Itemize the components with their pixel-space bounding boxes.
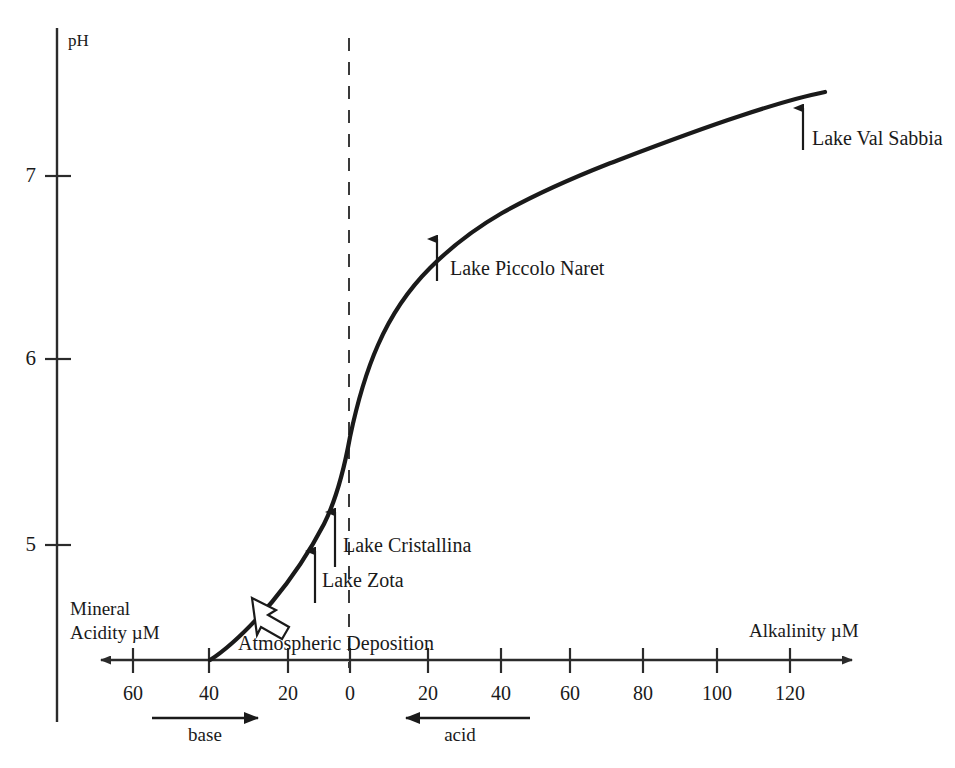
chart-canvas [0,0,955,768]
ph-titration-figure: pH 7 6 5 60 40 20 0 20 40 60 80 100 120 … [0,0,955,768]
x-tick-label-120: 120 [763,682,817,704]
x-tick-label-20: 20 [403,682,453,704]
x-tick-label-80: 80 [618,682,668,704]
mineral-acidity-line2: Acidity µM [70,621,160,645]
atmospheric-deposition-label: Atmospheric Deposition [238,632,434,654]
x-tick-label-60: 60 [545,682,595,704]
alkalinity-axis-title: Alkalinity µM [749,620,859,641]
x-tick-label-minus20: 20 [263,682,313,704]
y-tick-label-5: 5 [8,533,36,557]
lake-piccolo-naret-label: Lake Piccolo Naret [450,257,604,279]
x-tick-label-minus40: 40 [184,682,234,704]
y-axis-title: pH [68,31,89,50]
x-tick-label-zero: 0 [325,682,375,704]
base-label: base [170,724,240,745]
x-tick-label-100: 100 [690,682,744,704]
mineral-acidity-axis-title: Mineral Acidity µM [70,597,160,645]
lake-zota-label: Lake Zota [322,569,404,591]
mineral-acidity-line1: Mineral [70,597,160,621]
titration-curve [210,92,825,660]
x-tick-label-minus60: 60 [108,682,158,704]
lake-cristallina-label: Lake Cristallina [343,534,471,556]
y-tick-label-6: 6 [8,347,36,371]
x-tick-label-40: 40 [476,682,526,704]
lake-val-sabbia-label: Lake Val Sabbia [812,127,943,149]
acid-label: acid [425,724,495,745]
y-tick-label-7: 7 [8,164,36,188]
